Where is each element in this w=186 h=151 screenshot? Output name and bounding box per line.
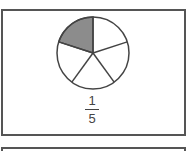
next-card-edge [1, 147, 186, 151]
pie-chart-fifths [53, 15, 133, 95]
fraction-numerator: 1 [82, 94, 102, 107]
pie-divider [93, 42, 127, 53]
pie-divider [93, 53, 114, 82]
fraction-label: 1 5 [82, 94, 102, 125]
fraction-denominator: 5 [82, 112, 102, 125]
fraction-bar [85, 109, 99, 110]
pie-divider [72, 53, 93, 82]
